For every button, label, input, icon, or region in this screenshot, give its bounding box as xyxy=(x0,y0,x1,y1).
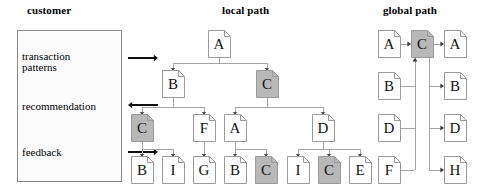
node-global-a-right: A xyxy=(444,30,468,58)
node-global-a-left: A xyxy=(378,30,402,58)
node-local-b-3: B xyxy=(224,156,248,184)
node-global-d-right: D xyxy=(444,114,468,142)
node-shape xyxy=(256,157,278,184)
node-shape xyxy=(132,115,154,142)
node-shape xyxy=(319,157,341,184)
node-local-f-1: F xyxy=(193,114,217,142)
node-shape xyxy=(194,115,216,142)
node-shape xyxy=(209,31,231,58)
node-shape xyxy=(194,157,216,184)
node-shape xyxy=(379,31,401,58)
diagram-canvas: customerlocal pathglobal pathtransaction… xyxy=(0,0,477,193)
node-local-b-2: B xyxy=(131,156,155,184)
node-shape xyxy=(445,157,467,184)
node-local-c-2: C xyxy=(131,114,155,142)
node-shape xyxy=(225,157,247,184)
node-local-a-root: A xyxy=(208,30,232,58)
node-shape xyxy=(445,31,467,58)
node-local-c-3: C xyxy=(255,156,279,184)
arrow-transaction-patterns-head xyxy=(154,55,158,61)
node-shape xyxy=(379,157,401,184)
node-shape xyxy=(313,115,335,142)
node-global-f-left: F xyxy=(378,156,402,184)
node-shape xyxy=(163,71,185,98)
node-shape xyxy=(163,157,185,184)
node-shape xyxy=(445,73,467,100)
node-local-e-1: E xyxy=(349,156,373,184)
node-local-i-1: I xyxy=(162,156,186,184)
node-shape xyxy=(132,157,154,184)
node-local-c-4: C xyxy=(318,156,342,184)
node-global-b-right: B xyxy=(444,72,468,100)
node-shape xyxy=(445,115,467,142)
node-global-c-center: C xyxy=(411,30,435,58)
node-global-b-left: B xyxy=(378,72,402,100)
node-local-i-2: I xyxy=(287,156,311,184)
node-shape xyxy=(379,115,401,142)
node-local-d-1: D xyxy=(312,114,336,142)
node-local-a-2: A xyxy=(224,114,248,142)
node-local-g-1: G xyxy=(193,156,217,184)
node-shape xyxy=(350,157,372,184)
node-shape xyxy=(412,31,434,58)
node-shape xyxy=(379,73,401,100)
arrow-feedback-head xyxy=(154,149,158,155)
gedge-head-trunk-left xyxy=(412,58,417,62)
node-shape xyxy=(225,115,247,142)
arrow-recommendation-head xyxy=(128,102,132,108)
node-local-c-1: C xyxy=(256,70,280,98)
node-shape xyxy=(288,157,310,184)
node-local-b-1: B xyxy=(162,70,186,98)
node-global-d-left: D xyxy=(378,114,402,142)
node-global-h-right: H xyxy=(444,156,468,184)
node-shape xyxy=(257,71,279,98)
